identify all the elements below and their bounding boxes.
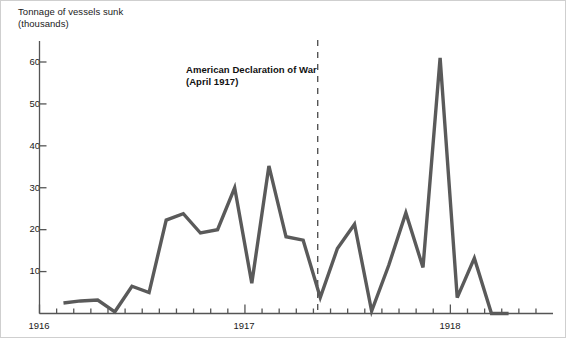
chart-figure: Tonnage of vessels sunk (thousands) Amer…	[0, 0, 566, 338]
axes-group	[40, 41, 554, 314]
plot-area	[0, 0, 566, 338]
frame-top	[0, 0, 566, 1]
frame-left	[0, 0, 1, 338]
y-tick-marks	[40, 62, 47, 272]
tonnage-data-line	[63, 58, 508, 314]
